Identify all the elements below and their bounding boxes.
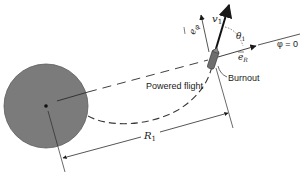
burnout-pointer (218, 66, 227, 77)
v1-label: v1 (212, 13, 222, 26)
phi-zero-label: φ = 0 (277, 39, 298, 49)
planet-center-marker (44, 104, 48, 108)
powered-flight-path (88, 66, 212, 124)
ephi-label: eφ (187, 23, 201, 36)
burnout-label: Burnout (228, 73, 260, 83)
ephi-overbar (184, 27, 185, 34)
er-label: eR (238, 52, 248, 63)
planet (4, 64, 88, 148)
unit-vector-ephi (201, 15, 209, 52)
diagram-canvas: R1 eφ v1 θ1 eR φ = 0 Burnout Powered fli… (0, 0, 302, 178)
r1-label: R1 (143, 130, 156, 143)
theta1-label: θ1 (236, 31, 245, 42)
powered-flight-label: Powered flight (146, 81, 204, 91)
